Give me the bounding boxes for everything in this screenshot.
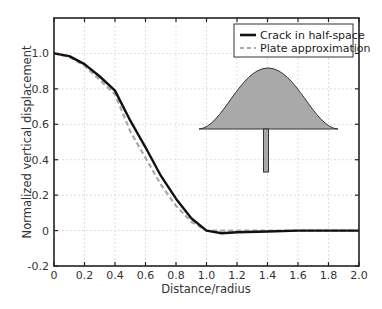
bell-shape-icon xyxy=(199,68,338,129)
x-tick-label: 2.0 xyxy=(350,269,368,282)
y-tick-label: -0.2 xyxy=(28,260,49,273)
legend-label-crack: Crack in half-space xyxy=(260,29,365,42)
x-tick-label: 1.8 xyxy=(320,269,338,282)
y-tick-label: 0.2 xyxy=(32,189,50,202)
x-axis-label: Distance/radius xyxy=(161,282,251,296)
legend-label-plate: Plate approximation xyxy=(260,42,371,55)
x-tick-label: 1.6 xyxy=(289,269,307,282)
x-tick-label: 0.2 xyxy=(76,269,94,282)
x-tick-label: 1.4 xyxy=(259,269,277,282)
x-tick-label: 1.2 xyxy=(228,269,246,282)
x-tick-label: 0 xyxy=(51,269,58,282)
crack-profile-inset xyxy=(199,68,338,172)
x-tick-label: 0.4 xyxy=(106,269,124,282)
x-tick-label: 1.0 xyxy=(198,269,216,282)
y-tick-label: 0.6 xyxy=(32,118,50,131)
x-tick-label: 0.6 xyxy=(137,269,155,282)
y-axis-label: Normalized vertical displacement xyxy=(20,45,34,238)
y-tick-label: 1.0 xyxy=(32,47,50,60)
x-tick-labels: 00.20.40.60.81.01.21.41.61.82.0 xyxy=(51,269,368,282)
line-chart: 00.20.40.60.81.01.21.41.61.82.0 -0.200.2… xyxy=(0,0,382,309)
x-tick-label: 0.8 xyxy=(167,269,185,282)
y-tick-label: 0.8 xyxy=(32,83,50,96)
feeder-stem-icon xyxy=(264,129,269,172)
legend: Crack in half-space Plate approximation xyxy=(234,24,371,57)
y-tick-label: 0.4 xyxy=(32,154,50,167)
y-tick-label: 0 xyxy=(42,225,49,238)
